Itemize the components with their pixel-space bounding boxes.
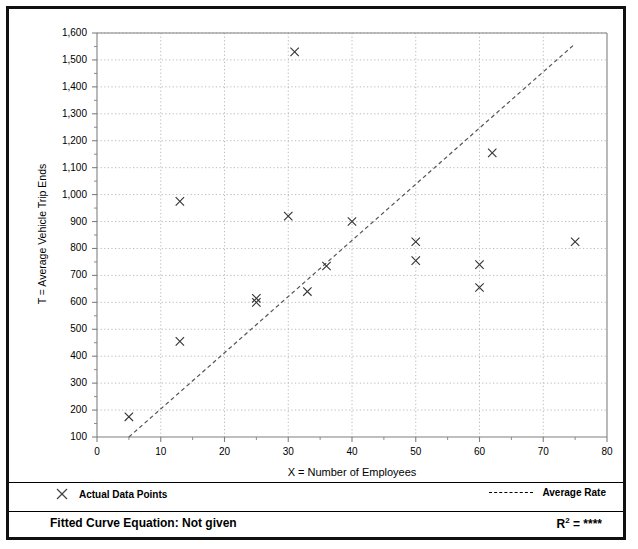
data-point-marker [125,413,133,421]
x-tick-label: 70 [528,447,558,457]
dashed-line-icon [489,492,533,493]
y-tick-label: 600 [41,297,87,307]
y-tick-label: 1,200 [41,136,87,146]
gridlines [97,33,607,437]
r-squared-number: = **** [570,517,602,531]
legend-label-data-points: Actual Data Points [79,489,167,500]
r-squared-value: R2 = **** [557,516,602,531]
data-point-marker [290,48,298,56]
chart-footer: Fitted Curve Equation: Not given R2 = **… [0,516,638,542]
x-tick-label: 30 [273,447,303,457]
axis-lines [92,33,607,442]
legend-divider-bottom [9,511,623,512]
data-point-marker [488,149,496,157]
y-tick-label: 500 [41,324,87,334]
x-axis-title: X = Number of Employees [97,466,607,478]
y-tick-label: 1,600 [41,28,87,38]
y-tick-label: 1,100 [41,163,87,173]
fitted-curve-equation: Fitted Curve Equation: Not given [50,516,237,530]
data-point-marker [252,294,260,302]
y-tick-label: 400 [41,351,87,361]
data-point-marker [176,197,184,205]
r-squared-prefix: R [557,517,566,531]
legend-label-average-rate: Average Rate [542,487,606,498]
chart-legend: Actual Data Points Average Rate [0,487,638,507]
x-tick-label: 60 [465,447,495,457]
y-tick-label: 300 [41,378,87,388]
data-point-marker [475,283,483,291]
legend-entry-data-points: Actual Data Points [55,487,167,501]
x-marker-icon [55,487,69,501]
x-tick-label: 40 [337,447,367,457]
y-tick-label: 200 [41,405,87,415]
data-point-marker [571,238,579,246]
y-tick-label: 1,500 [41,55,87,65]
x-tick-label: 20 [210,447,240,457]
y-tick-label: 1,000 [41,190,87,200]
y-tick-label: 900 [41,217,87,227]
data-point-marker [303,287,311,295]
y-tick-label: 100 [41,432,87,442]
legend-divider-top [9,482,623,483]
y-tick-label: 800 [41,243,87,253]
legend-entry-average-rate: Average Rate [489,487,606,498]
y-tick-label: 1,300 [41,109,87,119]
y-tick-label: 1,400 [41,82,87,92]
y-tick-label: 700 [41,270,87,280]
x-tick-label: 80 [592,447,622,457]
scatter-figure: T = Average Vehicle Trip Ends X = Number… [0,0,638,549]
data-point-marker [176,337,184,345]
x-tick-label: 0 [82,447,112,457]
chart-page: T = Average Vehicle Trip Ends X = Number… [0,0,638,549]
x-tick-label: 50 [401,447,431,457]
x-tick-label: 10 [146,447,176,457]
average-rate-line [129,44,575,437]
